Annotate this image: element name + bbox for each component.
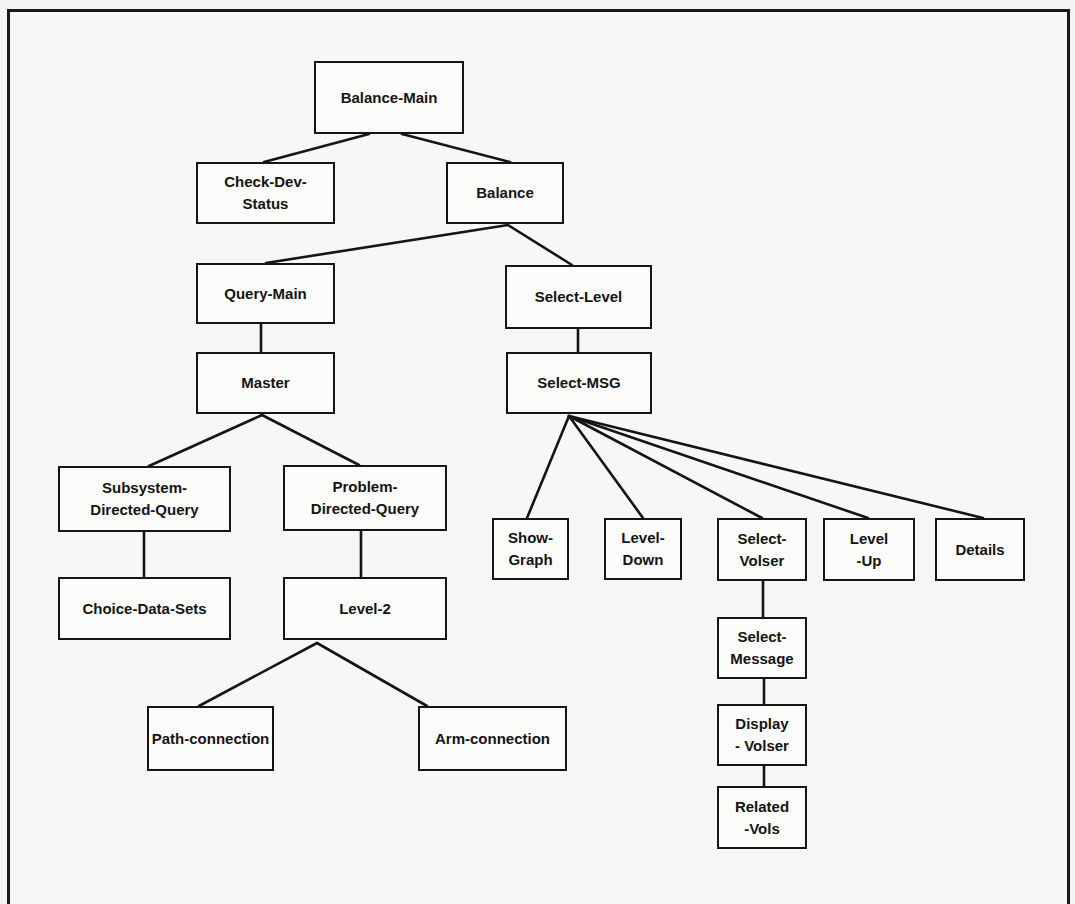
node-balance[interactable]: Balance bbox=[446, 162, 564, 224]
node-label: Subsystem- Directed-Query bbox=[90, 477, 198, 521]
node-show-graph[interactable]: Show- Graph bbox=[492, 518, 569, 580]
node-label: Balance-Main bbox=[341, 87, 438, 109]
node-label: Problem- Directed-Query bbox=[311, 476, 419, 520]
node-label: Arm-connection bbox=[435, 728, 550, 750]
node-related-vols[interactable]: Related -Vols bbox=[717, 786, 807, 849]
node-label: Level-2 bbox=[339, 598, 391, 620]
edge-balance-main-to-balance bbox=[402, 134, 510, 162]
node-label: Show- Graph bbox=[508, 527, 553, 571]
edge-master-to-subsystem-directed-query bbox=[149, 415, 262, 466]
node-level-up[interactable]: Level -Up bbox=[823, 518, 915, 581]
node-label: Select-Level bbox=[535, 286, 623, 308]
node-choice-data-sets[interactable]: Choice-Data-Sets bbox=[58, 577, 231, 640]
node-select-message[interactable]: Select- Message bbox=[717, 617, 807, 679]
node-label: Select- Message bbox=[730, 626, 793, 670]
edge-balance-main-to-check-dev-status bbox=[264, 134, 369, 162]
node-arm-connection[interactable]: Arm-connection bbox=[418, 706, 567, 771]
node-label: Select- Volser bbox=[737, 528, 786, 572]
node-select-volser[interactable]: Select- Volser bbox=[717, 518, 807, 581]
node-subsystem-directed-query[interactable]: Subsystem- Directed-Query bbox=[58, 466, 231, 532]
node-path-connection[interactable]: Path-connection bbox=[147, 706, 274, 771]
edge-select-msg-to-select-volser bbox=[569, 416, 762, 518]
node-label: Master bbox=[241, 372, 289, 394]
edge-balance-to-select-level bbox=[508, 225, 572, 265]
node-balance-main[interactable]: Balance-Main bbox=[314, 61, 464, 134]
node-label: Select-MSG bbox=[537, 372, 620, 394]
node-level-down[interactable]: Level- Down bbox=[604, 518, 682, 580]
node-query-main[interactable]: Query-Main bbox=[196, 263, 335, 324]
edge-master-to-problem-directed-query bbox=[262, 415, 359, 465]
node-details[interactable]: Details bbox=[935, 518, 1025, 581]
edge-balance-to-query-main bbox=[266, 225, 508, 263]
node-master[interactable]: Master bbox=[196, 352, 335, 414]
edge-select-msg-to-show-graph bbox=[527, 416, 569, 518]
node-label: Query-Main bbox=[224, 283, 307, 305]
node-display-volser[interactable]: Display - Volser bbox=[717, 704, 807, 766]
node-label: Balance bbox=[476, 182, 534, 204]
node-label: Choice-Data-Sets bbox=[82, 598, 206, 620]
node-level-2[interactable]: Level-2 bbox=[283, 577, 447, 640]
node-label: Level -Up bbox=[850, 528, 888, 572]
edge-level-2-to-path-connection bbox=[199, 643, 317, 706]
node-label: Check-Dev- Status bbox=[224, 171, 307, 215]
node-label: Display - Volser bbox=[735, 713, 789, 757]
node-select-msg[interactable]: Select-MSG bbox=[506, 352, 652, 414]
node-label: Related -Vols bbox=[735, 796, 789, 840]
node-label: Level- Down bbox=[621, 527, 664, 571]
node-check-dev-status[interactable]: Check-Dev- Status bbox=[196, 162, 335, 224]
node-problem-directed-query[interactable]: Problem- Directed-Query bbox=[283, 465, 447, 531]
node-label: Path-connection bbox=[152, 728, 270, 750]
node-select-level[interactable]: Select-Level bbox=[505, 265, 652, 329]
node-label: Details bbox=[955, 539, 1004, 561]
edge-select-msg-to-level-up bbox=[569, 416, 868, 518]
edge-level-2-to-arm-connection bbox=[317, 643, 427, 706]
